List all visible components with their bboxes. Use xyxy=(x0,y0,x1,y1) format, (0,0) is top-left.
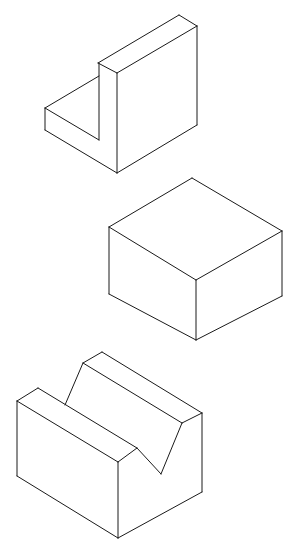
edge-line xyxy=(102,352,202,413)
edge-line xyxy=(83,363,182,423)
edge-line xyxy=(179,15,197,26)
edge-line xyxy=(117,26,197,73)
edge-line xyxy=(192,178,282,231)
edge-line xyxy=(45,130,117,173)
l-bracket-block xyxy=(45,15,197,173)
edge-line xyxy=(196,296,282,340)
edge-line xyxy=(65,363,83,405)
edge-line xyxy=(118,492,202,538)
isometric-figure xyxy=(0,0,298,551)
v-block xyxy=(17,352,202,538)
drawing-svg xyxy=(0,0,298,551)
cube-block xyxy=(109,178,282,340)
edge-line xyxy=(17,388,38,401)
edge-line xyxy=(38,388,137,448)
edge-line xyxy=(17,401,118,462)
edge-line xyxy=(196,231,282,280)
edge-line xyxy=(109,227,196,280)
edge-line xyxy=(17,476,118,538)
edge-line xyxy=(83,352,102,363)
edge-line xyxy=(118,448,137,462)
edge-line xyxy=(182,413,202,423)
edge-line xyxy=(98,15,179,63)
edge-line xyxy=(117,125,197,173)
edge-line xyxy=(109,294,196,340)
edge-line xyxy=(161,423,182,474)
edge-line xyxy=(137,448,161,474)
edge-line xyxy=(109,178,192,227)
edge-line xyxy=(45,76,99,108)
edge-line xyxy=(98,63,117,73)
